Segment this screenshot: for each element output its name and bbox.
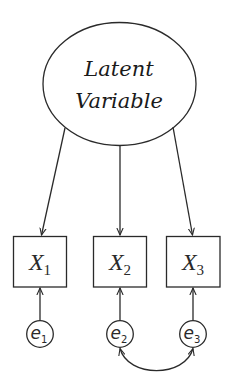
x2-subscript: 2 [124,262,132,278]
latent-label-line2: Variable [75,89,163,113]
x3-subscript: 3 [197,262,205,278]
e1-name: e [31,323,41,343]
path-latent-to-x1 [42,128,66,235]
x2-name: X [108,249,125,275]
e2-subscript: 2 [121,334,127,345]
error-node-e1: e1 [27,321,54,348]
observed-node-x3: X3 [167,237,221,288]
x3-name: X [181,249,198,275]
observed-node-x2: X2 [94,237,147,288]
observed-node-x1: X1 [14,237,67,288]
x1-name: X [28,249,45,275]
error-node-e2: e2 [107,321,134,348]
latent-label-line1: Latent [83,57,154,81]
error-node-e3: e3 [180,321,207,348]
e3-name: e [184,323,194,343]
e3-subscript: 3 [194,334,200,345]
e2-name: e [111,323,121,343]
path-latent-to-x3 [173,127,193,235]
x1-subscript: 1 [44,262,52,278]
sem-diagram: Latent Variable X1 X2 X3 e1 e2 [0,0,233,389]
covariance-e2-e3 [120,349,193,371]
e1-subscript: 1 [41,334,47,345]
